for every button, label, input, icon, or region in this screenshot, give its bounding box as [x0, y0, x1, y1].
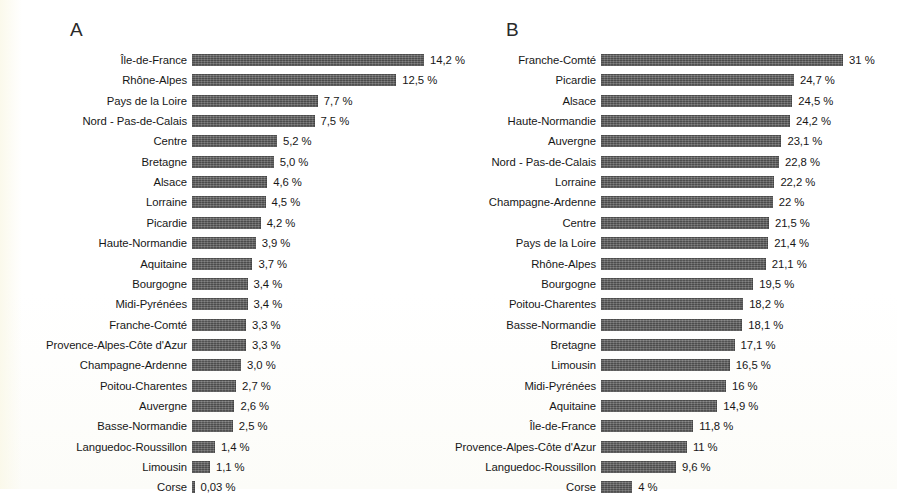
bar-row: Île-de-France11,8 % — [450, 416, 897, 436]
bar — [601, 420, 693, 432]
bar-category-label: Haute-Normandie — [8, 233, 187, 253]
bar-category-label: Rhône-Alpes — [410, 254, 596, 274]
bar-row: Aquitaine14,9 % — [450, 396, 897, 416]
bar-value-label: 3,4 % — [254, 274, 283, 294]
bar-value-label: 21,5 % — [775, 213, 810, 233]
bar — [192, 135, 277, 147]
bar — [192, 298, 248, 310]
bar-category-label: Basse-Normandie — [410, 315, 596, 335]
bar — [601, 135, 781, 147]
bar-value-label: 4,2 % — [267, 213, 296, 233]
bar — [192, 217, 261, 229]
bar-value-label: 3,3 % — [252, 315, 281, 335]
bar-row: Lorraine4,5 % — [0, 192, 450, 212]
bar-value-label: 24,7 % — [800, 70, 835, 90]
bar-row: Aquitaine3,7 % — [0, 254, 450, 274]
bar-category-label: Bourgogne — [410, 274, 596, 294]
bar-value-label: 0,03 % — [201, 477, 236, 497]
bar-category-label: Centre — [8, 131, 187, 151]
bar-value-label: 5,2 % — [283, 131, 312, 151]
bar-row: Midi-Pyrénées3,4 % — [0, 294, 450, 314]
bar-row: Alsace24,5 % — [450, 91, 897, 111]
bar-value-label: 21,1 % — [772, 254, 807, 274]
bar — [601, 217, 769, 229]
bar-value-label: 31 % — [849, 50, 875, 70]
bar-row: Franche-Comté31 % — [450, 50, 897, 70]
bar — [601, 400, 717, 412]
bar-category-label: Aquitaine — [410, 396, 596, 416]
bar-row: Alsace4,6 % — [0, 172, 450, 192]
bar — [192, 196, 266, 208]
bar-category-label: Bourgogne — [8, 274, 187, 294]
bar-row: Franche-Comté3,3 % — [0, 315, 450, 335]
bar-row: Corse4 % — [450, 477, 897, 497]
bar — [192, 359, 241, 371]
bar — [192, 400, 234, 412]
bar-row: Limousin16,5 % — [450, 355, 897, 375]
bar-value-label: 14,9 % — [723, 396, 758, 416]
bar — [192, 339, 246, 351]
bar — [192, 481, 195, 493]
bar — [601, 196, 773, 208]
bar-category-label: Picardie — [410, 70, 596, 90]
bar-category-label: Champagne-Ardenne — [8, 355, 187, 375]
bar-category-label: Midi-Pyrénées — [8, 294, 187, 314]
bar-category-label: Limousin — [8, 457, 187, 477]
bar-row: Champagne-Ardenne3,0 % — [0, 355, 450, 375]
bar-value-label: 11 % — [693, 437, 718, 457]
bar-row: Bourgogne3,4 % — [0, 274, 450, 294]
bar-category-label: Champagne-Ardenne — [410, 192, 596, 212]
bar-row: Poitou-Charentes2,7 % — [0, 376, 450, 396]
bar-category-label: Alsace — [8, 172, 187, 192]
bar-category-label: Provence-Alpes-Côte d'Azur — [8, 335, 187, 355]
bar-value-label: 22 % — [779, 192, 805, 212]
bar — [601, 115, 790, 127]
bar-category-label: Lorraine — [410, 172, 596, 192]
bar-row: Provence-Alpes-Côte d'Azur3,3 % — [0, 335, 450, 355]
bar-value-label: 2,6 % — [240, 396, 269, 416]
bar-row: Basse-Normandie2,5 % — [0, 416, 450, 436]
bar — [192, 441, 215, 453]
bar — [601, 359, 730, 371]
panel-b: B Franche-Comté31 %Picardie24,7 %Alsace2… — [450, 0, 897, 489]
bar-value-label: 3,9 % — [262, 233, 291, 253]
bar-category-label: Limousin — [410, 355, 596, 375]
bar-row: Bretagne17,1 % — [450, 335, 897, 355]
bar-value-label: 18,1 % — [748, 315, 783, 335]
bar-row: Lorraine22,2 % — [450, 172, 897, 192]
bar-row: Nord - Pas-de-Calais22,8 % — [450, 152, 897, 172]
bar-category-label: Aquitaine — [8, 254, 187, 274]
bar-row: Languedoc-Roussillon9,6 % — [450, 457, 897, 477]
bar-row: Midi-Pyrénées16 % — [450, 376, 897, 396]
bar-category-label: Picardie — [8, 213, 187, 233]
bar-row: Centre21,5 % — [450, 213, 897, 233]
bar-value-label: 7,7 % — [324, 91, 353, 111]
bar-category-label: Haute-Normandie — [410, 111, 596, 131]
bar — [601, 461, 676, 473]
bar-value-label: 2,5 % — [239, 416, 268, 436]
bar-row: Bretagne5,0 % — [0, 152, 450, 172]
bar-row: Limousin1,1 % — [0, 457, 450, 477]
bar-row: Picardie4,2 % — [0, 213, 450, 233]
bar-value-label: 4,6 % — [273, 172, 302, 192]
bar-value-label: 22,8 % — [785, 152, 820, 172]
bar-category-label: Corse — [410, 477, 596, 497]
bar-value-label: 2,7 % — [242, 376, 271, 396]
bar-value-label: 1,4 % — [221, 437, 250, 457]
bar-value-label: 21,4 % — [774, 233, 809, 253]
bar-value-label: 16 % — [732, 376, 758, 396]
bar-row: Bourgogne19,5 % — [450, 274, 897, 294]
bar-value-label: 24,2 % — [796, 111, 831, 131]
bar-category-label: Basse-Normandie — [8, 416, 187, 436]
bar-category-label: Auvergne — [410, 131, 596, 151]
bar-category-label: Franche-Comté — [8, 315, 187, 335]
panel-b-bar-rows: Franche-Comté31 %Picardie24,7 %Alsace24,… — [450, 0, 897, 489]
bar-row: Île-de-France14,2 % — [0, 50, 450, 70]
bar-row: Champagne-Ardenne22 % — [450, 192, 897, 212]
bar — [192, 319, 246, 331]
bar-row: Picardie24,7 % — [450, 70, 897, 90]
bar-value-label: 1,1 % — [216, 457, 245, 477]
bar-row: Poitou-Charentes18,2 % — [450, 294, 897, 314]
bar-value-label: 18,2 % — [749, 294, 784, 314]
bar-value-label: 3,7 % — [258, 254, 287, 274]
